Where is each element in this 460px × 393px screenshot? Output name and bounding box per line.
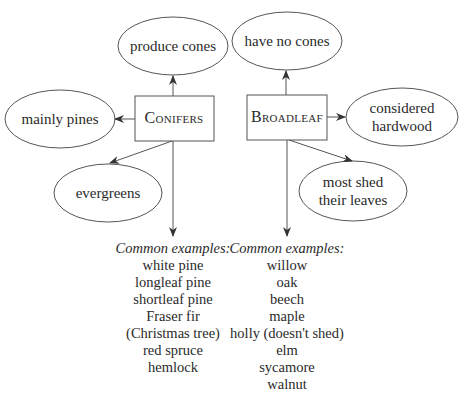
considered-hardwood-line2: hardwood [370, 117, 435, 135]
broadleaf-example: beech [212, 291, 362, 308]
broadleaf-examples-heading: Common examples: [212, 240, 362, 257]
broadleaf-example: holly (doesn't shed) [212, 325, 362, 342]
broadleaf-examples-list: Common examples: willow oak beech maple … [212, 240, 362, 393]
broadleaf-example: elm [212, 342, 362, 359]
broadleaf-example: oak [212, 274, 362, 291]
arrow-conifers-to-evergreens [110, 141, 172, 163]
arrow-broadleaf-to-most-shed [289, 140, 352, 161]
mainly-pines-label: mainly pines [21, 110, 98, 128]
considered-hardwood-label: considered hardwood [370, 99, 435, 135]
most-shed-line2: their leaves [319, 191, 388, 209]
most-shed-label: most shed their leaves [319, 173, 388, 209]
considered-hardwood-line1: considered [370, 99, 435, 117]
broadleaf-example: willow [212, 257, 362, 274]
broadleaf-example: sycamore [212, 359, 362, 376]
evergreens-label: evergreens [76, 184, 141, 202]
most-shed-line1: most shed [319, 173, 388, 191]
broadleaf-example: maple [212, 308, 362, 325]
produce-cones-label: produce cones [130, 37, 216, 55]
broadleaf-example: walnut [212, 376, 362, 393]
have-no-cones-label: have no cones [245, 32, 330, 50]
broadleaf-label: Broadleaf [251, 108, 323, 126]
conifers-label: Conifers [145, 109, 204, 127]
